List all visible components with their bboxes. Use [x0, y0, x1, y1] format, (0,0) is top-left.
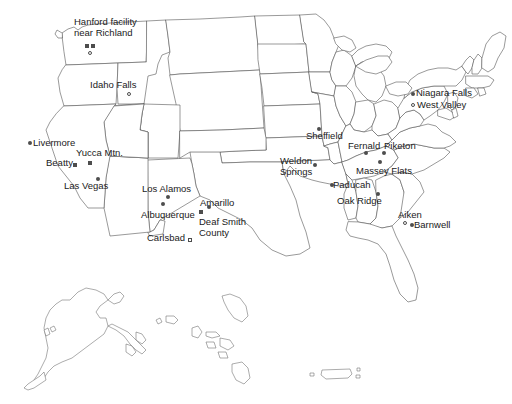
site-marker-barnwell[interactable] [410, 223, 414, 227]
site-label-deaf-smith-county: Deaf Smith County [199, 217, 246, 238]
site-label-beatty: Beatty [46, 158, 73, 169]
site-label-massey-flats: Massey Flats [356, 166, 412, 177]
site-marker-sheffield[interactable] [317, 127, 321, 131]
site-marker-paducah[interactable] [330, 183, 334, 187]
site-marker-hanford-3[interactable] [88, 51, 92, 55]
site-marker-amarillo[interactable] [207, 205, 211, 209]
site-marker-massey-flats[interactable] [378, 160, 382, 164]
site-label-los-alamos: Los Alamos [142, 184, 191, 195]
site-label-albuquerque: Albuquerque [141, 210, 195, 221]
site-marker-livermore[interactable] [28, 141, 32, 145]
site-label-weldon-springs: Weldon Springs [280, 156, 312, 177]
site-label-livermore: Livermore [33, 138, 75, 149]
site-label-carlsbad: Carlsbad [147, 233, 185, 244]
site-label-piketon: Piketon [384, 141, 416, 152]
site-marker-hanford-1[interactable] [85, 44, 89, 48]
us-nuclear-sites-map: Hanford facility near RichlandIdaho Fall… [0, 0, 512, 404]
site-label-west-valley: West Valley [417, 100, 466, 111]
site-marker-las-vegas[interactable] [96, 177, 100, 181]
site-label-fernald: Fernald [348, 141, 380, 152]
site-marker-beatty[interactable] [73, 163, 77, 167]
site-marker-carlsbad[interactable] [188, 238, 192, 242]
site-label-hanford: Hanford facility near Richland [74, 17, 137, 38]
site-marker-fernald[interactable] [364, 151, 368, 155]
site-label-amarillo: Amarillo [200, 198, 234, 209]
hawaii-inset [156, 294, 250, 384]
alaska-inset [24, 288, 146, 390]
site-label-oak-ridge: Oak Ridge [337, 196, 382, 207]
site-marker-deaf-smith-county[interactable] [199, 210, 203, 214]
site-label-las-vegas: Las Vegas [64, 181, 108, 192]
site-marker-idaho-falls[interactable] [127, 92, 131, 96]
site-marker-aiken[interactable] [403, 221, 407, 225]
site-label-paducah: Paducah [333, 180, 371, 191]
site-marker-oak-ridge[interactable] [376, 192, 380, 196]
site-label-niagara-falls: Niagara Falls [416, 88, 472, 99]
site-label-yucca-mtn: Yucca Mtn. [76, 148, 123, 159]
site-label-sheffield: Sheffield [306, 131, 343, 142]
site-marker-weldon-springs[interactable] [313, 163, 317, 167]
site-marker-niagara-falls[interactable] [411, 92, 415, 96]
site-marker-piketon[interactable] [382, 151, 386, 155]
site-label-idaho-falls: Idaho Falls [90, 80, 136, 91]
puerto-rico-inset [310, 368, 360, 379]
site-marker-hanford-2[interactable] [91, 44, 95, 48]
site-marker-yucca-mtn[interactable] [88, 161, 92, 165]
map-geography [0, 0, 512, 404]
site-marker-albuquerque[interactable] [161, 202, 165, 206]
site-marker-west-valley[interactable] [411, 103, 415, 107]
site-label-barnwell: Barnwell [414, 220, 450, 231]
site-marker-los-alamos[interactable] [166, 195, 170, 199]
